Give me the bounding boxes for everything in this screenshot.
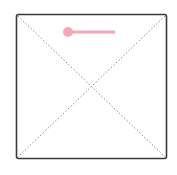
- slider-knob[interactable]: [63, 27, 73, 37]
- image-placeholder-icon: [17, 15, 167, 159]
- placeholder-frame: [0, 0, 177, 175]
